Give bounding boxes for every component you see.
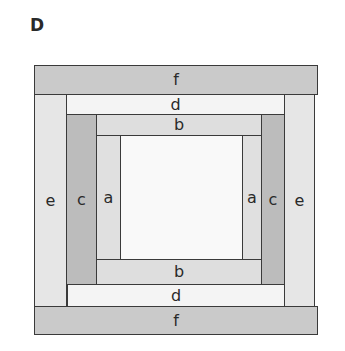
strip-d-bottom: d <box>67 284 285 308</box>
strip-label: e <box>295 193 305 209</box>
strip-b-bottom: b <box>96 259 262 285</box>
strip-label: f <box>173 313 179 329</box>
strip-f-top: f <box>34 65 318 95</box>
strip-label: a <box>104 190 114 206</box>
strip-b-top: b <box>96 114 262 136</box>
center-square <box>120 135 243 260</box>
strip-label: c <box>77 192 86 208</box>
strip-label: c <box>269 192 278 208</box>
strip-c-left: c <box>66 114 97 285</box>
strip-a-left: a <box>96 135 121 260</box>
diagram-title: D <box>30 15 44 35</box>
strip-label: f <box>173 72 179 88</box>
strip-label: d <box>171 288 181 304</box>
strip-e-right: e <box>284 94 315 307</box>
strip-label: d <box>170 97 180 113</box>
strip-label: a <box>247 190 257 206</box>
strip-d-top: d <box>66 94 285 115</box>
strip-c-right: c <box>261 114 285 285</box>
strip-label: e <box>46 193 56 209</box>
strip-label: b <box>174 117 184 133</box>
strip-f-bottom: f <box>34 306 318 335</box>
strip-label: b <box>174 264 184 280</box>
strip-e-left: e <box>34 94 67 308</box>
strip-a-right: a <box>242 135 262 260</box>
